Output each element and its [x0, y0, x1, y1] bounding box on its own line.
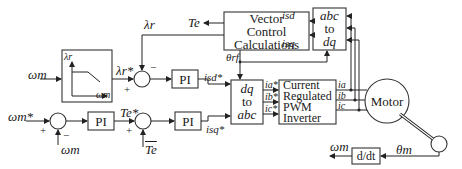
- isd-ref-label: isd*: [204, 72, 222, 83]
- vector-control-label: Vector Control Calculations: [224, 12, 309, 51]
- ia-label: ia: [338, 80, 346, 90]
- omega-m-input-label: ωm: [28, 68, 47, 81]
- isq-label: isq: [282, 38, 295, 49]
- flux-sum-plus: +: [124, 84, 130, 95]
- torque-sum-plus: +: [126, 125, 132, 136]
- dq-to-abc-label: dq to abc: [231, 82, 263, 121]
- te-bar-label: Te: [145, 143, 157, 156]
- pi-flux-label: PI: [172, 73, 198, 86]
- vector-control-diagram: Vector Control Calculations abc to dq dq…: [0, 0, 462, 169]
- te-ref-label: Te*: [120, 106, 138, 119]
- te-output-label: Te: [188, 16, 200, 29]
- inverter-line4: Inverter: [283, 113, 340, 124]
- omega-m-ref-label: ωm*: [8, 110, 33, 123]
- isq-ref-label: isq*: [206, 124, 224, 135]
- lambda-r-ref-label: λr*: [116, 64, 133, 77]
- theta-m-label: θm: [396, 143, 412, 156]
- omega-m-feedback-label: ωm: [61, 143, 80, 156]
- abc-to-dq-label: abc to dq: [313, 9, 346, 48]
- flux-sum-minus: −: [150, 62, 156, 73]
- speed-sum-minus: −: [63, 130, 69, 141]
- vector-control-line3: Calculations: [224, 38, 309, 51]
- isd-label: isd: [282, 10, 295, 21]
- pi-torque-label: PI: [175, 115, 201, 128]
- ia-ref-label: ia*: [265, 80, 278, 90]
- derivative-label: d/dt: [352, 150, 380, 163]
- flux-y-axis-label: λr: [64, 52, 72, 62]
- speed-sum-plus: +: [40, 125, 46, 136]
- inverter-label: Current Regulated PWM Inverter: [279, 80, 340, 124]
- sum-flux: [134, 71, 150, 87]
- omega-m-output-label: ωm: [330, 140, 349, 153]
- motor-label: Motor: [365, 95, 409, 108]
- sum-speed: [50, 113, 66, 129]
- abc-to-dq-line3: dq: [313, 35, 346, 48]
- ic-ref-label: ic*: [265, 104, 277, 114]
- ib-ref-label: ib*: [265, 92, 278, 102]
- lambda-r-label: λr: [144, 18, 155, 31]
- dq-to-abc-line3: abc: [231, 108, 263, 121]
- flux-x-axis-label: ωm: [96, 90, 110, 100]
- theta-rf-label: θrf: [226, 52, 239, 63]
- ic-label: ic: [338, 101, 345, 111]
- pi-speed-label: PI: [88, 115, 114, 128]
